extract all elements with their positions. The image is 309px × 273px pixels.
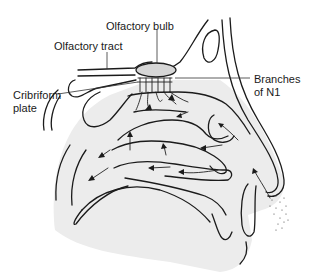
label-branches-line1: Branches: [254, 73, 300, 85]
label-olfactory-bulb: Olfactory bulb: [106, 20, 174, 32]
nasal-cavity-diagram: [0, 0, 309, 273]
label-cribriform-line2: plate: [13, 102, 37, 114]
label-branches-line2: of N1: [254, 86, 280, 98]
label-cribriform-line1: Cribriform: [13, 89, 61, 101]
olfactory-bulb-shape: [136, 63, 176, 77]
frontal-sinus: [203, 30, 220, 62]
label-olfactory-tract: Olfactory tract: [54, 40, 122, 52]
